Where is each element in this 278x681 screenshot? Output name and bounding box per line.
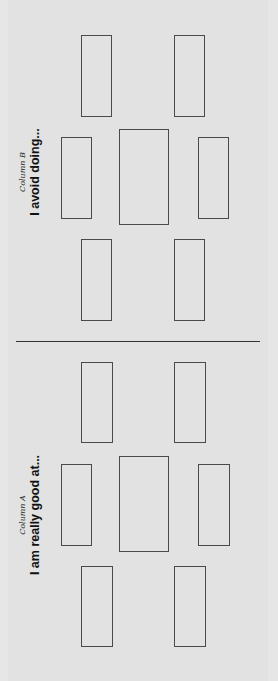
column-a-answer-box [174,566,206,647]
column-b-answer-box [198,137,229,219]
column-a-answer-box [81,566,113,647]
column-b-answer-box [174,35,205,117]
column-a-heading: I am really good at... [28,440,42,590]
column-a-answer-box [198,464,230,546]
column-b-answer-box [61,137,92,219]
column-a-answer-box [61,464,92,546]
section-divider [16,341,260,342]
column-b-answer-box [174,239,205,321]
column-b-label: Column B I avoid doing... [18,122,42,222]
column-a-answer-box [81,362,113,443]
column-b-subtitle: Column B [18,122,28,222]
column-a-answer-box [119,456,169,552]
column-b-answer-box [81,35,112,117]
column-a-label: Column A I am really good at... [18,440,42,590]
column-a-subtitle: Column A [18,440,28,590]
column-b-heading: I avoid doing... [28,122,42,222]
column-b-answer-box [119,129,169,225]
column-b-answer-box [81,239,112,321]
column-a-answer-box [174,362,206,443]
